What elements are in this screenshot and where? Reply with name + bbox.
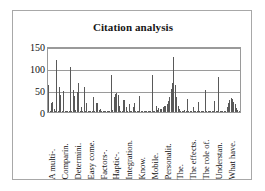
bar bbox=[84, 87, 85, 112]
bar bbox=[111, 75, 112, 112]
bar bbox=[93, 97, 94, 112]
x-axis-tick: Comparin. bbox=[61, 143, 70, 179]
x-axis-tick: Determini. bbox=[74, 142, 83, 179]
x-axis-tick: The role of. bbox=[202, 139, 211, 179]
x-axis-tick: Mobile. bbox=[150, 152, 159, 179]
y-axis: 150 100 50 0 bbox=[13, 11, 45, 179]
x-axis-tick: The. bbox=[176, 164, 185, 179]
bar-series bbox=[48, 48, 240, 112]
bar bbox=[56, 60, 57, 112]
x-axis-tick: Easy come. bbox=[86, 140, 95, 179]
x-axis-tick: Understan. bbox=[214, 142, 223, 179]
bar bbox=[218, 77, 219, 112]
y-axis-tick: 100 bbox=[13, 64, 45, 75]
x-axis: A multi-.Comparin.Determini.Easy come.Fa… bbox=[47, 115, 241, 179]
x-axis-tick: Haptic-. bbox=[112, 151, 121, 179]
bar bbox=[152, 75, 153, 112]
x-axis-tick: A multi-. bbox=[48, 148, 57, 179]
x-axis-tick: Factors-. bbox=[99, 149, 108, 179]
y-axis-tick: 0 bbox=[13, 108, 45, 119]
bar bbox=[70, 67, 71, 112]
chart-container: Citation analysis 150 100 50 0 A multi-.… bbox=[12, 10, 252, 180]
bar bbox=[239, 111, 240, 112]
x-axis-tick: The effects. bbox=[189, 139, 198, 179]
bar bbox=[60, 95, 61, 112]
bar bbox=[78, 83, 79, 112]
x-axis-tick: Personalit. bbox=[163, 143, 172, 179]
y-axis-tick: 150 bbox=[13, 42, 45, 53]
y-axis-tick: 50 bbox=[13, 86, 45, 97]
bar bbox=[205, 90, 206, 112]
bar bbox=[139, 96, 140, 112]
x-axis-tick: Know. bbox=[138, 157, 147, 179]
x-axis-tick: Integration. bbox=[125, 140, 134, 179]
plot-area bbox=[47, 47, 241, 113]
chart-title: Citation analysis bbox=[13, 21, 253, 33]
bar bbox=[63, 91, 64, 112]
bar bbox=[48, 85, 49, 112]
x-axis-tick: What have. bbox=[227, 140, 236, 179]
